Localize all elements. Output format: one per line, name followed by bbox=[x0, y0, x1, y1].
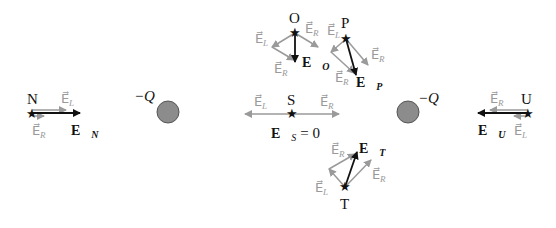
o-label: O bbox=[289, 10, 300, 26]
t-er-label: E⃗R bbox=[372, 167, 386, 184]
star-icon: ★ bbox=[339, 179, 351, 194]
p-er-label: E⃗R bbox=[371, 47, 385, 64]
star-icon: ★ bbox=[26, 106, 38, 121]
p-net-label: E⃗P bbox=[356, 75, 383, 92]
n-er-label: E⃗R bbox=[32, 123, 46, 140]
star-icon: ★ bbox=[522, 106, 534, 121]
u-label: U bbox=[521, 91, 532, 107]
charge-left-circle bbox=[157, 101, 179, 123]
t-label: T bbox=[340, 196, 349, 212]
point-o: ★ O E⃗L E⃗R E⃗R E⃗O bbox=[255, 10, 329, 78]
o-el-label: E⃗L bbox=[255, 31, 268, 48]
t-net-label: E⃗T bbox=[359, 141, 386, 158]
s-el-label: E⃗L bbox=[254, 94, 267, 111]
point-n: ★ N E⃗L E⃗R E⃗N bbox=[26, 91, 99, 140]
electric-field-diagram: −Q −Q ★ N E⃗L E⃗R E⃗N ★ O E⃗L E⃗R E⃗R E⃗… bbox=[0, 0, 556, 228]
n-net-label: E⃗N bbox=[71, 123, 99, 140]
point-u: ★ U E⃗R E⃗L E⃗U bbox=[478, 91, 534, 140]
p-er2-label: E⃗R bbox=[335, 70, 349, 87]
point-t: ★ T E⃗L E⃗R E⃗R E⃗T bbox=[315, 141, 386, 212]
charge-right-circle bbox=[397, 101, 419, 123]
s-net-label: E⃗S= 0 bbox=[271, 125, 320, 143]
star-icon: ★ bbox=[289, 25, 301, 40]
point-p: ★ P E⃗L E⃗R E⃗R E⃗P bbox=[327, 15, 385, 92]
o-field-right2-arrow bbox=[272, 47, 294, 60]
u-er-label: E⃗R bbox=[490, 91, 504, 108]
charge-left-label: −Q bbox=[134, 88, 155, 104]
point-s: ★ S E⃗L E⃗R E⃗S= 0 bbox=[245, 92, 339, 143]
s-er-label: E⃗R bbox=[320, 94, 334, 111]
o-net-label: E⃗O bbox=[302, 55, 329, 72]
n-label: N bbox=[27, 91, 38, 107]
s-label: S bbox=[287, 92, 295, 108]
t-er2-label: E⃗R bbox=[331, 142, 345, 159]
u-net-label: E⃗U bbox=[478, 123, 506, 140]
charge-right-label: −Q bbox=[418, 90, 439, 106]
charge-right: −Q bbox=[397, 90, 439, 123]
o-er-label: E⃗R bbox=[305, 21, 319, 38]
star-icon: ★ bbox=[286, 106, 298, 121]
p-label: P bbox=[341, 15, 349, 31]
n-el-label: E⃗L bbox=[61, 91, 74, 108]
o-er2-label: E⃗R bbox=[274, 61, 288, 78]
p-el-label: E⃗L bbox=[327, 23, 340, 40]
charge-left: −Q bbox=[134, 88, 179, 123]
u-el-label: E⃗L bbox=[514, 123, 527, 140]
t-el-label: E⃗L bbox=[315, 180, 328, 197]
star-icon: ★ bbox=[340, 31, 352, 46]
